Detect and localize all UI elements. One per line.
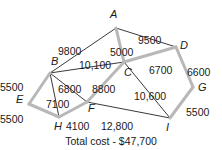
edge-weight-h-f: 4100 xyxy=(66,120,90,132)
edge-weight-c-d: 6700 xyxy=(149,64,173,76)
node-label-e: E xyxy=(16,93,24,105)
weights-layer: 98009500500010,1006700660055006800710088… xyxy=(0,34,211,132)
edge-f-i xyxy=(87,102,170,118)
edge-weight-b-h: 7100 xyxy=(46,98,70,110)
node-label-a: A xyxy=(109,8,117,20)
node-labels-layer: ABCDEFGHI xyxy=(16,8,207,133)
network-diagram: 98009500500010,1006700660055006800710088… xyxy=(0,0,222,150)
edge-weight-a-d: 9500 xyxy=(138,34,162,46)
edge-weight-a-b: 9800 xyxy=(58,45,82,57)
edge-weight-a-c: 5000 xyxy=(110,46,134,58)
edge-weight-e-h: 5500 xyxy=(0,113,24,125)
node-label-b: B xyxy=(51,55,58,67)
node-label-d: D xyxy=(180,39,188,51)
total-cost-label: Total cost - $47,700 xyxy=(65,135,157,147)
node-label-c: C xyxy=(124,66,132,78)
edge-weight-b-e: 5500 xyxy=(0,81,24,93)
edge-weight-c-i: 10,600 xyxy=(134,90,166,102)
edge-weight-b-f: 6800 xyxy=(58,83,82,95)
node-label-h: H xyxy=(54,120,62,132)
edge-weight-f-i: 12,800 xyxy=(101,120,133,132)
edge-weight-d-g: 6600 xyxy=(187,66,211,78)
node-label-g: G xyxy=(198,81,207,93)
edge-weight-b-c: 10,100 xyxy=(79,59,111,71)
edge-weight-c-f: 8800 xyxy=(92,83,116,95)
node-label-i: I xyxy=(166,121,169,133)
edge-weight-g-i: 5500 xyxy=(186,106,210,118)
